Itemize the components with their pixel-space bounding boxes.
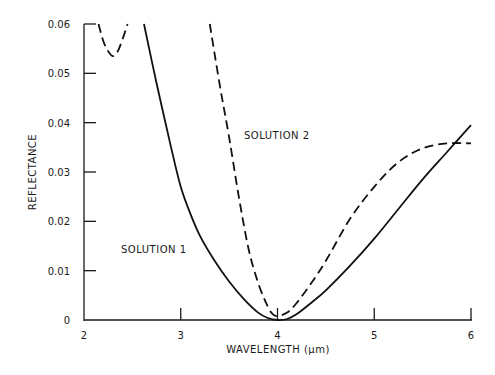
y-tick-label: 0.06: [48, 19, 70, 30]
y-tick-label: 0: [64, 315, 70, 326]
y-ticks: 00.010.020.030.040.050.06: [48, 19, 96, 326]
y-tick-label: 0.02: [48, 216, 70, 227]
axes: [84, 24, 472, 321]
y-tick-label: 0.04: [48, 118, 70, 129]
x-tick-label: 6: [468, 330, 474, 341]
x-tick-label: 5: [371, 330, 377, 341]
y-tick-label: 0.03: [48, 167, 70, 178]
x-tick-label: 2: [81, 330, 87, 341]
solution-1-curve: [144, 24, 471, 320]
curves: [99, 24, 471, 320]
x-ticks: 23456: [81, 308, 474, 341]
annotation-solution-2: SOLUTION 2: [244, 130, 310, 141]
x-tick-label: 3: [178, 330, 184, 341]
reflectance-chart: 00.010.020.030.040.050.06 23456 REFLECTA…: [0, 0, 495, 375]
y-tick-label: 0.01: [48, 266, 70, 277]
y-tick-label: 0.05: [48, 68, 70, 79]
annotation-solution-1: SOLUTION 1: [121, 244, 187, 255]
y-axis-title: REFLECTANCE: [27, 134, 38, 210]
solution-2-curve: [99, 24, 128, 56]
x-tick-label: 4: [274, 330, 280, 341]
x-axis-title: WAVELENGTH (μm): [226, 344, 330, 355]
